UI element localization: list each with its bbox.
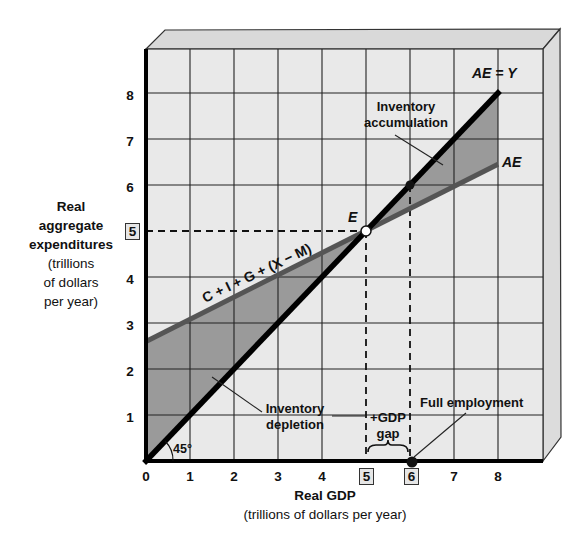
x-axis-title-sub: (trillions of dollars per year) (244, 507, 407, 522)
full-employment-point (407, 457, 418, 468)
y-axis-title-line3: expenditures (6, 235, 136, 254)
y-axis-sub-line2: of dollars (6, 273, 136, 292)
ae-equals-y-label: AE = Y (472, 65, 517, 81)
y-tick-6: 6 (120, 180, 140, 195)
y-tick-4: 4 (120, 272, 140, 287)
y-tick-5-highlighted: 5 (125, 223, 140, 240)
x-tick-0: 0 (136, 469, 156, 484)
y-tick-7: 7 (120, 134, 140, 149)
inventory-depletion-line2: depletion (258, 417, 332, 433)
y-tick-8: 8 (120, 88, 140, 103)
y-axis-sub-line1: (trillions (6, 254, 136, 273)
ae-label: AE (502, 154, 521, 170)
inventory-depletion-label: Inventory depletion (258, 401, 332, 433)
frame-top-face (146, 29, 560, 49)
y-tick-2: 2 (120, 364, 140, 379)
x-tick-4: 4 (312, 469, 332, 484)
inventory-accumulation-label: Inventory accumulation (346, 99, 466, 131)
equilibrium-point-e (361, 226, 371, 236)
y-tick-1: 1 (120, 410, 140, 425)
x-tick-3: 3 (268, 469, 288, 484)
y-axis-title-line1: Real (6, 197, 136, 216)
y-axis-title-line2: aggregate (6, 216, 136, 235)
x-axis-title-main: Real GDP (180, 486, 470, 505)
y-axis-sub-line3: per year) (6, 292, 136, 311)
y-tick-3: 3 (120, 318, 140, 333)
x-tick-5-highlighted: 5 (359, 468, 374, 485)
y-axis-title: Real aggregate expenditures (trillions o… (6, 197, 136, 311)
equilibrium-label-e: E (348, 209, 357, 225)
inventory-depletion-line1: Inventory (258, 401, 332, 417)
x-axis-title: Real GDP (trillions of dollars per year) (180, 486, 470, 524)
point-6-6 (406, 181, 415, 190)
angle-label: 45° (173, 441, 192, 457)
full-employment-label: Full employment (420, 395, 523, 411)
x-tick-6-highlighted: 6 (404, 468, 419, 485)
gdp-gap-line1: +GDP (367, 410, 409, 426)
gdp-gap-line2: gap (367, 426, 409, 442)
gdp-gap-label: +GDP gap (367, 410, 409, 442)
inventory-accumulation-line1: Inventory (346, 99, 466, 115)
x-tick-1: 1 (180, 469, 200, 484)
x-tick-8: 8 (488, 469, 508, 484)
inventory-accumulation-line2: accumulation (346, 115, 466, 131)
x-tick-7: 7 (444, 469, 464, 484)
x-tick-2: 2 (224, 469, 244, 484)
frame-right-face (543, 29, 561, 461)
